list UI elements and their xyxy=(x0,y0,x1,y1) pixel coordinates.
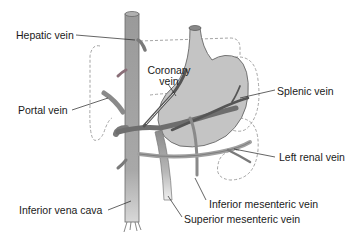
label-superior-mesenteric-vein: Superior mesenteric vein xyxy=(184,213,300,225)
label-coronary-vein-line2: vein xyxy=(143,75,195,87)
leader-inferior-mesenteric xyxy=(195,178,206,200)
esophagus-opening xyxy=(189,26,201,31)
inferior-vena-cava xyxy=(125,14,139,222)
label-inferior-mesenteric-vein: Inferior mesenteric vein xyxy=(209,198,318,210)
label-portal-vein: Portal vein xyxy=(18,104,68,116)
label-splenic-vein: Splenic vein xyxy=(277,85,334,97)
leader-superior-mesenteric xyxy=(168,196,182,217)
portal-venous-diagram: Hepatic vein Coronary vein Splenic vein … xyxy=(0,0,358,238)
liver-outline xyxy=(90,46,112,141)
label-hepatic-vein: Hepatic vein xyxy=(16,29,74,41)
label-inferior-vena-cava: Inferior vena cava xyxy=(19,204,102,216)
label-left-renal-vein: Left renal vein xyxy=(279,151,345,163)
portal-vein-upper-stub xyxy=(104,93,123,112)
